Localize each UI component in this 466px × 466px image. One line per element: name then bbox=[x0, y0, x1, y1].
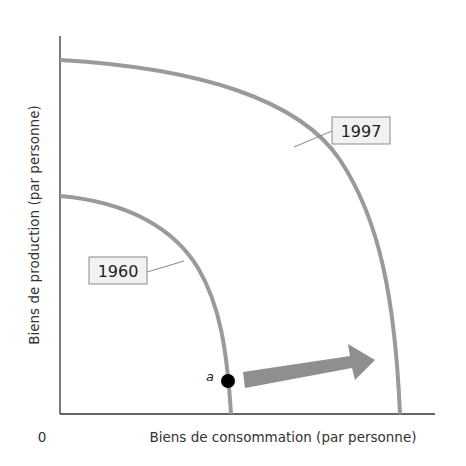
x-axis-label: Biens de consommation (par personne) bbox=[150, 429, 417, 445]
ppf-chart: 1997 1960 a 0 Biens de consommation (par… bbox=[0, 0, 466, 466]
shift-arrow bbox=[243, 344, 375, 388]
label-1960-text: 1960 bbox=[98, 262, 139, 281]
label-1960-leader bbox=[147, 261, 184, 272]
point-a-label: a bbox=[206, 369, 214, 384]
label-1997-text: 1997 bbox=[341, 122, 382, 141]
point-a bbox=[221, 374, 235, 388]
origin-label: 0 bbox=[38, 429, 47, 445]
y-axis-label: Biens de production (par personne) bbox=[26, 105, 42, 345]
